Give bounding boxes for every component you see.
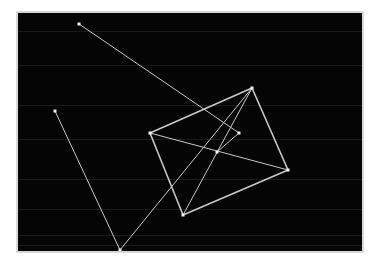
- center-junction-node[interactable]: [216, 151, 219, 154]
- edge-group: [55, 24, 288, 250]
- quad-top-vertex[interactable]: [251, 87, 254, 90]
- quad-edge-top-right[interactable]: [252, 88, 288, 170]
- quad-right-vertex[interactable]: [287, 169, 290, 172]
- scene-svg: [18, 13, 362, 251]
- quad-left-vertex[interactable]: [149, 132, 152, 135]
- center-spur[interactable]: [217, 133, 239, 152]
- polyline-rise-segment[interactable]: [120, 88, 252, 250]
- quad-bottom-vertex[interactable]: [182, 214, 185, 217]
- quad-edge-bottom-right[interactable]: [183, 170, 288, 215]
- long-ray-upper-left[interactable]: [79, 24, 239, 133]
- polyline-left-segment[interactable]: [55, 111, 120, 250]
- app-root: [0, 0, 381, 268]
- drawing-canvas[interactable]: [18, 13, 362, 251]
- far-upper-left-node[interactable]: [78, 23, 81, 26]
- scanline-group: [18, 32, 362, 246]
- upper-small-node[interactable]: [238, 132, 241, 135]
- quad-diagonal-a[interactable]: [150, 133, 288, 170]
- mid-left-node[interactable]: [54, 110, 57, 113]
- quad-edge-bottom-left[interactable]: [150, 133, 183, 215]
- quad-edge-top-left[interactable]: [150, 88, 252, 133]
- lower-left-node[interactable]: [119, 249, 122, 252]
- node-group: [54, 23, 290, 252]
